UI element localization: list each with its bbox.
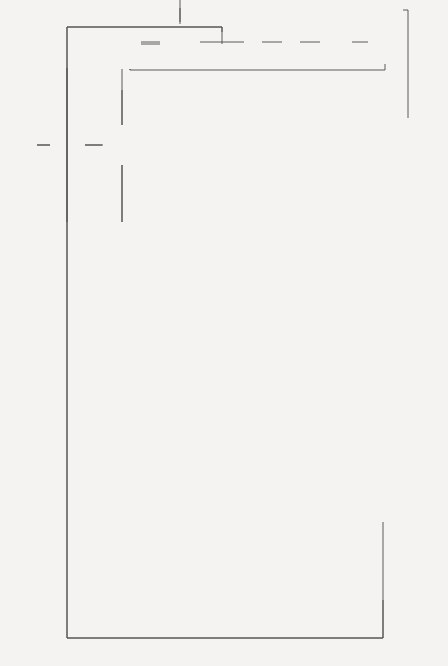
connectors-main xyxy=(37,0,383,638)
flowchart-main xyxy=(0,0,448,666)
